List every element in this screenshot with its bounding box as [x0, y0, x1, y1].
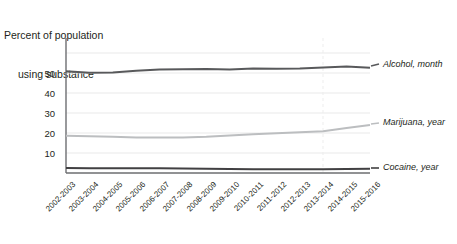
series-label-alcohol: Alcohol, month: [383, 59, 443, 69]
y-axis-tick-30: 30: [31, 108, 55, 119]
y-axis-tick-50: 50: [31, 68, 55, 79]
series-label-marijuana: Marijuana, year: [383, 117, 445, 127]
series-line-marijuana: [66, 125, 370, 138]
y-axis-tick-20: 20: [31, 128, 55, 139]
series-lines: [66, 67, 370, 170]
series-line-alcohol: [66, 67, 370, 73]
series-label-cocaine: Cocaine, year: [383, 162, 439, 172]
chart-root: Percent of population using substance: [0, 0, 457, 244]
y-axis-tick-10: 10: [31, 148, 55, 159]
series-line-cocaine: [66, 168, 370, 169]
series-label-ticks: [371, 64, 379, 168]
y-axis-tick-40: 40: [31, 88, 55, 99]
